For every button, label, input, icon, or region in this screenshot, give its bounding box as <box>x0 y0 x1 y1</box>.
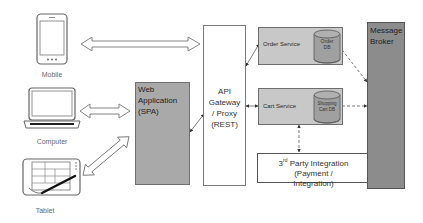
smartphone-icon <box>37 14 67 64</box>
order-service-label: Order Service <box>263 41 300 47</box>
gateway-line3: / Proxy <box>204 108 245 119</box>
order-service-box: Order Service Order DB <box>258 27 343 65</box>
broker-line2: Broker <box>370 36 402 47</box>
tablet-webapp-arrow <box>79 131 134 180</box>
tablet-label: Tablet <box>20 207 70 214</box>
gateway-line4: (REST) <box>204 119 245 130</box>
laptop-icon <box>24 88 80 128</box>
cart-service-label: Cart Service <box>263 103 296 109</box>
computer-webapp-arrow <box>80 104 130 118</box>
third-party-integration-box: 3rd Party Integration (Payment / Integra… <box>257 153 370 183</box>
cart-db-line2: Cart DB <box>313 107 341 113</box>
web-app-line1: Web <box>138 84 177 95</box>
third-party-line2: (Payment / <box>258 169 369 179</box>
gateway-line1: API <box>204 86 245 97</box>
computer-label: Computer <box>27 138 77 145</box>
cart-service-box: Cart Service Shopping Cart DB <box>258 88 343 125</box>
tablet-icon <box>23 159 80 195</box>
web-app-line3: (SPA) <box>138 106 177 117</box>
third-party-line1: 3rd Party Integration <box>258 155 369 169</box>
order-db-line2: DB <box>313 44 341 50</box>
mobile-gateway-arrow <box>81 37 200 51</box>
mobile-label: Mobile <box>27 71 77 78</box>
webapp-gateway-connector <box>190 114 204 132</box>
gateway-line2: Gateway <box>204 97 245 108</box>
web-app-line2: Application <box>138 95 177 106</box>
api-gateway-box: API Gateway / Proxy (REST) <box>203 25 246 186</box>
web-application-box: Web Application (SPA) <box>135 82 190 185</box>
broker-line1: Message <box>370 25 402 36</box>
message-broker-box: Message Broker <box>367 22 405 189</box>
third-party-line3: Integration) <box>258 179 369 189</box>
